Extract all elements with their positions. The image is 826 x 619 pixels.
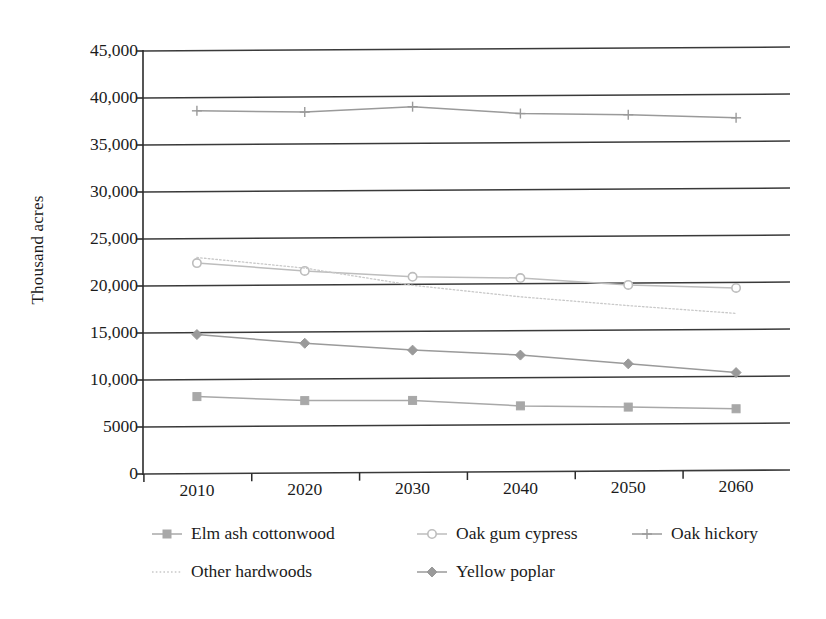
data-point: [623, 359, 633, 369]
legend-marker-circle-icon: [415, 527, 449, 541]
data-point: [515, 109, 525, 119]
data-point: [193, 393, 201, 401]
data-point: [516, 274, 524, 282]
data-point: [624, 281, 632, 289]
data-point: [301, 397, 309, 405]
data-point: [409, 396, 417, 404]
legend-item-other-hardwoods[interactable]: Other hardwoods: [150, 556, 312, 588]
chart-legend: Elm ash cottonwoodOak gum cypressOak hic…: [150, 518, 810, 598]
legend-item-elm-ash-cottonwood[interactable]: Elm ash cottonwood: [150, 518, 335, 550]
legend-item-label: Other hardwoods: [191, 563, 312, 581]
data-point: [408, 345, 418, 355]
legend-item-label: Oak gum cypress: [456, 525, 578, 543]
gridline-20000: [143, 282, 790, 286]
series-yellow-poplar: [192, 330, 741, 378]
legend-marker-plus-icon: [630, 527, 664, 541]
x-tick-label-2030: 2030: [395, 480, 430, 498]
gridline-10000: [143, 376, 790, 380]
series-line: [197, 397, 736, 409]
gridline-25000: [143, 235, 790, 239]
data-point: [516, 402, 524, 410]
legend-item-label: Yellow poplar: [456, 563, 555, 581]
data-point: [193, 259, 201, 267]
series-oak-hickory: [192, 102, 741, 123]
legend-marker-diamond-icon: [415, 565, 449, 579]
gridline-5000: [143, 423, 790, 427]
legend-item-oak-hickory[interactable]: Oak hickory: [630, 518, 758, 550]
x-tick-label-2010: 2010: [179, 482, 214, 500]
data-point: [731, 113, 741, 123]
gridline-30000: [143, 188, 790, 192]
data-point: [732, 284, 740, 292]
data-point: [300, 338, 310, 348]
legend-marker-none-icon: [150, 565, 184, 579]
legend-item-label: Elm ash cottonwood: [191, 525, 335, 543]
gridline-0: [143, 470, 790, 474]
x-tick-label-2020: 2020: [287, 481, 322, 499]
legend-item-yellow-poplar[interactable]: Yellow poplar: [415, 556, 555, 588]
data-point: [408, 102, 418, 112]
chart-figure: Thousand acres 0500010,00015,00020,00025…: [0, 0, 826, 619]
x-axis-tick-labels: 201020202030204020502060: [0, 476, 826, 504]
data-point: [624, 403, 632, 411]
series-line: [197, 107, 736, 118]
series-elm-ash-cottonwood: [193, 393, 740, 413]
legend-item-label: Oak hickory: [671, 525, 758, 543]
series-line: [197, 335, 736, 373]
series-oak-gum-cypress: [193, 259, 741, 292]
gridline-35000: [143, 141, 790, 145]
data-point: [300, 107, 310, 117]
legend-item-oak-gum-cypress[interactable]: Oak gum cypress: [415, 518, 578, 550]
data-point: [732, 405, 740, 413]
data-point: [623, 110, 633, 120]
data-point: [515, 350, 525, 360]
gridline-45000: [143, 47, 790, 51]
x-tick-label-2050: 2050: [611, 479, 646, 497]
data-point: [408, 273, 416, 281]
gridline-15000: [143, 329, 790, 333]
data-point: [192, 106, 202, 116]
gridline-40000: [143, 94, 790, 98]
legend-row-1: Elm ash cottonwoodOak gum cypressOak hic…: [150, 518, 810, 550]
legend-row-2: Other hardwoodsYellow poplar: [150, 556, 810, 588]
x-tick-label-2040: 2040: [503, 480, 538, 498]
data-point: [192, 330, 202, 340]
x-tick-label-2060: 2060: [719, 478, 754, 496]
legend-marker-square-icon: [150, 527, 184, 541]
